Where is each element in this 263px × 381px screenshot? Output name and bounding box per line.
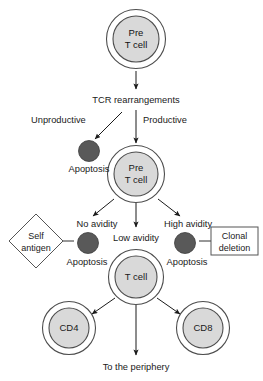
self-antigen-diamond-shape bbox=[9, 214, 63, 268]
clonal-deletion-node: Clonal deletion bbox=[211, 227, 258, 255]
self-antigen-label-line1: Self bbox=[28, 231, 44, 241]
self-antigen-label-line2: antigen bbox=[21, 243, 51, 253]
apoptosis-unproductive-icon bbox=[79, 141, 100, 162]
cd8-cell: CD8 bbox=[177, 302, 230, 355]
label-apoptosis-high-avidity: Apoptosis bbox=[167, 257, 208, 267]
label-apoptosis-no-avidity: Apoptosis bbox=[67, 257, 108, 267]
diagram-canvas: Pre T cell Pre T cell T cell CD4 CD8 bbox=[0, 0, 263, 381]
arrow-no-avidity bbox=[93, 199, 114, 216]
pre-t-cell-middle-label-line1: Pre bbox=[129, 162, 144, 173]
arrow-t-cell-to-cd4 bbox=[92, 298, 115, 314]
pre-t-cell-middle: Pre T cell bbox=[108, 146, 165, 203]
arrow-unproductive-to-apoptosis bbox=[95, 112, 122, 139]
label-unproductive: Unproductive bbox=[31, 115, 86, 125]
t-cell-development-diagram: Pre T cell Pre T cell T cell CD4 CD8 bbox=[0, 0, 263, 381]
arrow-t-cell-to-cd8 bbox=[157, 298, 180, 314]
label-high-avidity: High avidity bbox=[164, 219, 212, 229]
pre-t-cell-top-label-line1: Pre bbox=[129, 27, 144, 38]
apoptosis-no-avidity-icon bbox=[78, 233, 99, 254]
clonal-deletion-label-line1: Clonal bbox=[222, 231, 248, 241]
cd4-cell: CD4 bbox=[43, 302, 96, 355]
pre-t-cell-top-label-line2: T cell bbox=[125, 39, 148, 50]
pre-t-cell-top: Pre T cell bbox=[107, 10, 166, 69]
label-low-avidity: Low avidity bbox=[113, 233, 159, 243]
pre-t-cell-middle-label-line2: T cell bbox=[125, 174, 148, 185]
self-antigen-node: Self antigen bbox=[9, 214, 63, 268]
label-productive: Productive bbox=[143, 115, 187, 125]
label-apoptosis-unproductive: Apoptosis bbox=[69, 164, 110, 174]
arrow-high-avidity bbox=[158, 199, 180, 216]
apoptosis-high-avidity-icon bbox=[175, 233, 196, 254]
clonal-deletion-label-line2: deletion bbox=[219, 243, 251, 253]
label-no-avidity: No avidity bbox=[77, 219, 118, 229]
cd8-cell-label: CD8 bbox=[193, 322, 212, 333]
label-to-the-periphery: To the periphery bbox=[103, 362, 170, 372]
label-tcr-rearrangements: TCR rearrangements bbox=[92, 95, 180, 105]
t-cell: T cell bbox=[109, 250, 164, 305]
cd4-cell-label: CD4 bbox=[59, 322, 78, 333]
t-cell-label: T cell bbox=[125, 271, 148, 282]
